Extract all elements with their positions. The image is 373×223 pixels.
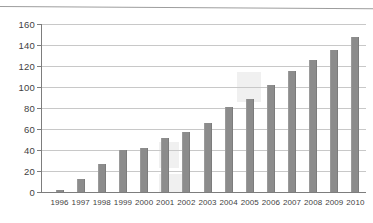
y-tick-label: 60 (24, 124, 35, 135)
y-tick-label: 120 (19, 61, 35, 72)
x-tick-label: 2005 (241, 198, 259, 207)
x-tick-label: 2003 (198, 198, 216, 207)
bar-chart: 020406080100120140160 199619971998199920… (0, 14, 373, 219)
x-tick-label: 2001 (156, 198, 174, 207)
x-tick-label: 1997 (72, 198, 90, 207)
y-tick-label: 40 (24, 145, 35, 156)
bar[interactable] (56, 190, 64, 192)
page-top-rule (0, 6, 373, 9)
bar-series (41, 24, 366, 193)
x-tick-label: 2004 (220, 198, 238, 207)
x-tick-label: 2006 (262, 198, 280, 207)
bar[interactable] (246, 99, 254, 192)
x-tick-label: 2002 (177, 198, 195, 207)
x-tick-label: 1996 (50, 198, 68, 207)
x-tick-label: 2007 (283, 198, 301, 207)
bar[interactable] (119, 150, 127, 192)
y-tick-label: 20 (24, 166, 35, 177)
bar[interactable] (182, 132, 190, 192)
x-tick-label: 1999 (114, 198, 132, 207)
bar[interactable] (267, 85, 275, 192)
bar[interactable] (330, 50, 338, 192)
bar[interactable] (204, 123, 212, 192)
x-tick-label: 2010 (346, 198, 364, 207)
x-tick-label: 2008 (304, 198, 322, 207)
bar[interactable] (288, 71, 296, 192)
y-tick-label: 0 (30, 187, 35, 198)
x-tick-label: 2000 (135, 198, 153, 207)
y-tick-label: 140 (19, 40, 35, 51)
x-tick-label: 1998 (93, 198, 111, 207)
bar[interactable] (140, 148, 148, 192)
y-tick-label: 100 (19, 82, 35, 93)
bar[interactable] (351, 37, 359, 192)
y-tick-label: 80 (24, 103, 35, 114)
chart-page: 020406080100120140160 199619971998199920… (0, 0, 373, 223)
y-tick-label: 160 (19, 19, 35, 30)
bar[interactable] (161, 138, 169, 192)
bar[interactable] (309, 60, 317, 192)
bar[interactable] (225, 107, 233, 192)
bar[interactable] (98, 164, 106, 192)
plot-area: 020406080100120140160 199619971998199920… (41, 24, 366, 193)
bar[interactable] (77, 179, 85, 192)
x-tick-label: 2009 (325, 198, 343, 207)
